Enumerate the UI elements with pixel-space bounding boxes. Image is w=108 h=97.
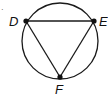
point-e <box>91 18 96 23</box>
point-f <box>57 74 62 79</box>
diagram-canvas: · D E F <box>0 0 108 97</box>
segment-fd <box>26 21 60 77</box>
label-e: E <box>99 14 108 29</box>
point-d <box>23 18 28 23</box>
label-f: F <box>55 82 64 97</box>
segment-ef <box>60 21 94 77</box>
label-d: D <box>9 14 18 29</box>
circumscribed-circle <box>22 3 98 79</box>
stray-mark: · <box>1 5 4 14</box>
